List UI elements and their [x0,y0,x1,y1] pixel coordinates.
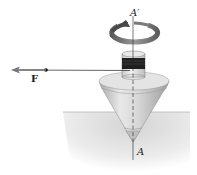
top-spool [122,51,145,80]
force-label: F [31,74,38,84]
rotation-arrow-icon [112,20,158,42]
axis-bottom-label: A [137,147,144,157]
axis-top-label: A′ [130,8,140,18]
spinning-top-diagram: A′ A F [0,0,197,175]
force-arrow-icon [11,67,46,74]
diagram-graphics [0,0,197,175]
